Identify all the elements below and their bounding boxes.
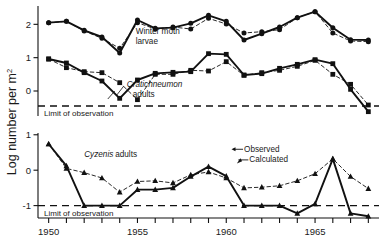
y-tick-label: 0: [26, 165, 31, 176]
data-point-circle: [64, 19, 69, 24]
data-point-square: [82, 69, 87, 74]
panel-top: 012Limit of observation: [26, 6, 379, 118]
winter-moth-larvae-label-line2: larvae: [136, 37, 159, 46]
x-tick-label-1950: 1950: [38, 226, 59, 237]
data-point-triangle: [312, 171, 318, 176]
observed-legend-label: Observed: [244, 145, 280, 154]
annotations: Winter mothlarvaeCratichneumonadultsCyze…: [84, 27, 288, 165]
y-tick-label: 0: [26, 85, 31, 96]
data-point-circle: [206, 16, 211, 21]
data-point-triangle: [135, 178, 141, 183]
y-axis-label-text: Log number per m2: [5, 69, 19, 175]
data-point-square: [366, 103, 371, 108]
data-point-square: [64, 61, 69, 66]
data-point-circle: [117, 46, 122, 51]
data-point-square: [206, 51, 211, 56]
chart-svg: 012Limit of observation-1011950195519601…: [0, 0, 385, 245]
data-point-square: [277, 68, 282, 73]
data-point-triangle: [206, 169, 212, 174]
y-tick-label: 2: [26, 19, 31, 30]
series-cratichneumon-adults-observed: [46, 51, 370, 114]
data-point-square: [188, 68, 193, 73]
data-point-triangle: [117, 189, 123, 194]
data-point-square: [206, 69, 211, 74]
data-point-square: [330, 61, 335, 66]
data-point-circle: [330, 31, 335, 36]
data-point-square: [100, 70, 105, 75]
data-point-triangle: [170, 180, 176, 185]
data-point-circle: [135, 20, 140, 25]
data-point-circle: [348, 39, 353, 44]
line-calculated: [49, 59, 369, 105]
winter-moth-larvae-label-line1: Winter moth: [136, 27, 181, 36]
x-axis: 1950195519601965: [38, 218, 379, 237]
cratichneumon-label-genus: Cratichneumon: [127, 80, 183, 89]
data-point-square: [224, 59, 229, 64]
data-point-circle: [313, 9, 318, 14]
calculated-legend-label: Calculated: [249, 155, 288, 164]
data-point-triangle: [206, 164, 212, 169]
data-point-circle: [188, 27, 193, 32]
data-point-circle: [82, 29, 87, 34]
data-point-square: [117, 80, 122, 85]
data-point-circle: [259, 29, 264, 34]
data-point-circle: [117, 51, 122, 56]
data-point-triangle: [330, 156, 336, 161]
data-point-square: [330, 72, 335, 77]
data-point-circle: [99, 36, 104, 41]
data-point-square: [64, 65, 69, 70]
data-point-triangle: [152, 178, 158, 183]
data-point-square: [366, 109, 371, 114]
cratichneumon-leader-2: [108, 91, 115, 99]
data-point-square: [348, 87, 353, 92]
data-point-circle: [188, 21, 193, 26]
cratichneumon-leader-1: [117, 86, 124, 95]
series-cratichneumon-adults-calculated: [46, 57, 370, 108]
observed-leader-arrow: [232, 147, 236, 151]
x-tick-label-1960: 1960: [216, 226, 237, 237]
y-ticks-top: 012: [26, 19, 38, 97]
panel-bottom: -1011950195519601965Limit of observation: [23, 129, 379, 237]
data-point-square: [100, 79, 105, 84]
data-point-triangle: [241, 185, 247, 190]
data-point-circle: [277, 27, 282, 32]
x-tick-label-1965: 1965: [304, 226, 325, 237]
data-point-square: [46, 57, 51, 62]
y-axis-label: Log number per m2: [5, 69, 19, 175]
data-point-square: [348, 82, 353, 87]
data-point-circle: [224, 22, 229, 27]
data-point-triangle: [312, 201, 318, 206]
cratichneumon-label-adults: adults: [133, 90, 155, 99]
y-axis-label-superscript: 2: [5, 69, 14, 73]
data-point-circle: [295, 15, 300, 20]
data-point-circle: [366, 39, 371, 44]
data-point-circle: [242, 31, 247, 36]
cyzenis-label-genus: Cyzenis: [84, 150, 113, 159]
data-point-square: [224, 52, 229, 57]
y-ticks-bottom: -101: [23, 129, 38, 211]
data-point-circle: [330, 25, 335, 30]
data-point-square: [295, 64, 300, 69]
y-tick-label: 1: [26, 52, 31, 63]
y-tick-label: 1: [26, 129, 31, 140]
data-point-square: [117, 96, 122, 101]
x-tick-label-1955: 1955: [127, 226, 148, 237]
data-point-triangle: [365, 186, 371, 191]
data-point-square: [313, 58, 318, 63]
data-point-triangle: [46, 141, 52, 146]
figure-winter-moth-population: 012Limit of observation-1011950195519601…: [0, 0, 385, 245]
data-point-square: [171, 72, 176, 77]
limit-of-observation-label-top: Limit of observation: [44, 109, 113, 118]
data-point-circle: [46, 20, 51, 25]
line-observed: [49, 54, 369, 112]
limit-of-observation-label-bottom: Limit of observation: [44, 209, 113, 218]
data-point-square: [259, 70, 264, 75]
y-tick-label: -1: [23, 200, 31, 211]
data-point-square: [153, 72, 158, 77]
cyzenis-label-adults: adults: [115, 150, 137, 159]
calculated-leader-arrow: [237, 158, 242, 163]
data-point-square: [242, 73, 247, 78]
data-point-circle: [242, 38, 247, 43]
